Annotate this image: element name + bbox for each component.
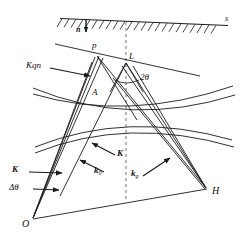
label-point-p: p (92, 41, 97, 50)
leader-K-lower (29, 172, 62, 173)
crystal-surface-line (60, 19, 228, 26)
label-k-zero: k0 (94, 166, 102, 176)
label-vector-K-lower: K (12, 165, 18, 174)
label-surface-s: s (225, 15, 228, 23)
leader-K-upper (92, 143, 115, 155)
label-k-g-subscript: g (136, 173, 139, 179)
label-vector-Kqn: Kqn (26, 61, 41, 70)
label-point-L: L (129, 52, 134, 61)
label-angle-two-theta: 2θ (140, 73, 149, 82)
surface-hatching (57, 19, 216, 34)
leader-Kqn (50, 68, 90, 76)
label-k-zero-subscript: 0 (99, 170, 102, 176)
label-point-A: A (92, 88, 98, 97)
kossel-arc-upper-b (33, 88, 235, 110)
label-delta-theta: Δθ (9, 183, 19, 192)
label-normal-n: n (76, 26, 80, 34)
line-through-p-L (55, 44, 200, 76)
label-vector-K-upper: K (117, 149, 123, 158)
label-point-H: H (212, 186, 219, 196)
baseline-O-H (33, 189, 207, 219)
leader-delta-theta (33, 189, 59, 190)
ray-pencil-to-H (98, 57, 206, 188)
leader-kg (143, 158, 170, 176)
label-k-g: kg (131, 169, 139, 179)
figure-canvas: s n p L A 2θ Kqn K K Δθ k0 kg O H (0, 0, 245, 238)
label-point-O: O (22, 219, 29, 229)
diagram-svg (0, 0, 245, 238)
